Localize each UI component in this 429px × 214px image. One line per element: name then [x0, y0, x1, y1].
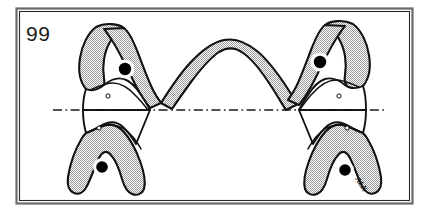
figure-number-label: 99 [26, 22, 50, 45]
left-upper-dot [119, 63, 131, 75]
right-upper-foramen-icon [337, 94, 341, 98]
figure-illustration-container: 99 ALK [0, 0, 429, 214]
left-upper-foramen-icon [106, 94, 110, 98]
right-lower-foramen-icon [345, 126, 349, 130]
left-lower-dot [96, 161, 108, 173]
right-upper-dot [314, 56, 326, 68]
left-lower-foramen-icon [97, 126, 101, 130]
anatomical-figure-drawing: 99 ALK [0, 0, 429, 214]
right-lower-dot [339, 164, 351, 176]
